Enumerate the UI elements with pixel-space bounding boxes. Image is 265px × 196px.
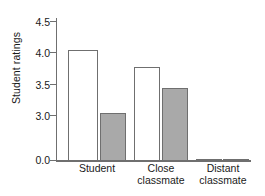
bar-filled-close-classmate [162,88,188,161]
x-label-distant-classmate: Distant classmate [182,163,264,186]
y-tick-label-4-0: 4.0 [24,48,50,59]
bar-open-distant-classmate [196,159,222,161]
bar-filled-student [100,113,126,161]
plot-area [56,0,251,161]
y-tick-label-4-5: 4.5 [24,17,50,28]
x-axis-category-labels: Student Close classmate Distant classmat… [56,163,251,196]
y-tick-label-3-0: 3.0 [24,111,50,122]
bar-filled-distant-classmate [223,159,249,161]
bar-chart: Student ratings 4.5 4.0 3.5 3.0 0.0 Stud… [0,0,265,196]
y-axis-tick-labels: 4.5 4.0 3.5 3.0 0.0 [22,0,50,196]
bar-open-student [68,50,98,161]
bar-open-close-classmate [134,67,160,161]
y-tick-label-3-5: 3.5 [24,80,50,91]
y-tick-label-0-0: 0.0 [24,155,50,166]
x-label-distant-classmate-line2: classmate [182,175,264,187]
y-axis-title: Student ratings [10,8,22,128]
x-label-distant-classmate-line1: Distant [182,163,264,175]
